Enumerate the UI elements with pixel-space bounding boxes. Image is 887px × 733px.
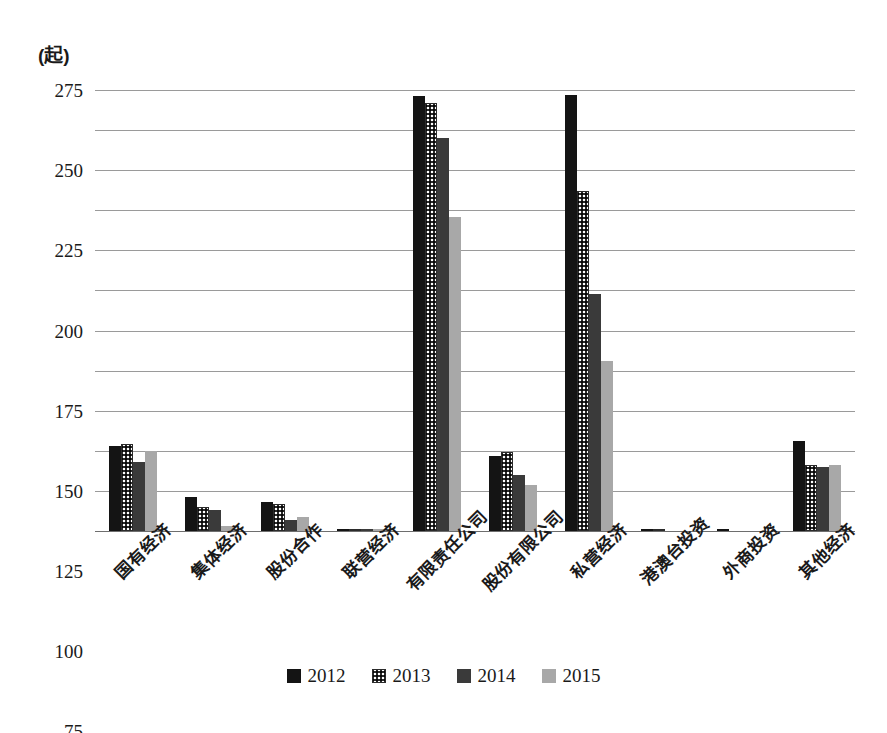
- bar-2012: [413, 96, 425, 531]
- bar-2014: [513, 475, 525, 531]
- bar-2013: [197, 507, 209, 531]
- y-axis-tick-label: 125: [23, 562, 83, 581]
- bar-group: [247, 90, 323, 531]
- legend-swatch-icon: [457, 669, 471, 683]
- bar-2012: [109, 446, 121, 531]
- legend-label: 2015: [563, 666, 601, 685]
- bars-layer: [95, 90, 855, 531]
- bar-group: [323, 90, 399, 531]
- x-axis-labels: 国有经济集体经济股份合作联营经济有限责任公司股份有限公司私营经济港澳台投资外商投…: [95, 531, 855, 651]
- bar-2012: [565, 95, 577, 531]
- bar-2014: [437, 138, 449, 531]
- y-axis-tick-label: 250: [23, 161, 83, 180]
- legend-item-2015[interactable]: 2015: [542, 666, 601, 685]
- bar-2014: [133, 462, 145, 531]
- x-axis-label-slot: 集体经济: [171, 531, 247, 651]
- bar-group: [95, 90, 171, 531]
- y-axis-tick-label: 175: [23, 401, 83, 420]
- bar-2013: [501, 452, 513, 531]
- bar-2013: [577, 191, 589, 531]
- y-axis-tick-label: 150: [23, 481, 83, 500]
- bar-2012: [793, 441, 805, 531]
- x-axis-label-slot: 其他经济: [779, 531, 855, 651]
- bar-2013: [121, 444, 133, 531]
- bar-group: [399, 90, 475, 531]
- legend-item-2014[interactable]: 2014: [457, 666, 516, 685]
- bar-group: [627, 90, 703, 531]
- x-axis-label-slot: 私营经济: [551, 531, 627, 651]
- bar-chart: (起) 0255075100125150175200225250275 国有经济…: [0, 0, 887, 733]
- bar-2014: [589, 294, 601, 531]
- x-axis-label-slot: 股份合作: [247, 531, 323, 651]
- x-axis-label-slot: 国有经济: [95, 531, 171, 651]
- legend-item-2012[interactable]: 2012: [287, 666, 346, 685]
- legend-swatch-icon: [542, 669, 556, 683]
- bar-group: [779, 90, 855, 531]
- bar-2013: [425, 103, 437, 531]
- x-axis-label-slot: 有限责任公司: [399, 531, 475, 651]
- bar-group: [171, 90, 247, 531]
- bar-2013: [805, 465, 817, 531]
- bar-2013: [273, 504, 285, 531]
- plot-area: 0255075100125150175200225250275: [95, 90, 855, 531]
- bar-2014: [817, 467, 829, 531]
- bar-2015: [601, 361, 613, 531]
- x-axis-label-slot: 港澳台投资: [627, 531, 703, 651]
- legend-label: 2012: [308, 666, 346, 685]
- legend-swatch-icon: [372, 669, 386, 683]
- bar-2012: [261, 502, 273, 531]
- legend-label: 2014: [478, 666, 516, 685]
- bar-2012: [185, 497, 197, 531]
- bar-group: [551, 90, 627, 531]
- x-axis-label-slot: 联营经济: [323, 531, 399, 651]
- chart-legend: 2012201320142015: [0, 666, 887, 685]
- y-axis-tick-label: 100: [23, 642, 83, 661]
- x-axis-label-slot: 外商投资: [703, 531, 779, 651]
- bar-2014: [209, 510, 221, 531]
- bar-group: [703, 90, 779, 531]
- y-axis-tick-label: 275: [23, 81, 83, 100]
- legend-item-2013[interactable]: 2013: [372, 666, 431, 685]
- y-axis-tick-label: 75: [23, 722, 83, 733]
- y-axis-tick-label: 200: [23, 321, 83, 340]
- y-axis-unit-label: (起): [38, 40, 70, 67]
- bar-group: [475, 90, 551, 531]
- y-axis-tick-label: 225: [23, 241, 83, 260]
- legend-swatch-icon: [287, 669, 301, 683]
- legend-label: 2013: [393, 666, 431, 685]
- x-axis-label-slot: 股份有限公司: [475, 531, 551, 651]
- bar-2015: [449, 217, 461, 531]
